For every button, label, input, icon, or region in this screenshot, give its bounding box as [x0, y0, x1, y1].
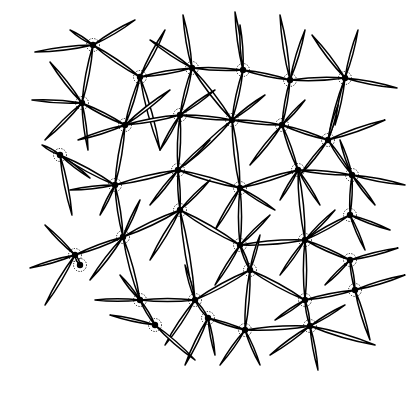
spicule-ray: [35, 45, 93, 52]
spicule-ray: [290, 77, 345, 80]
spicule-network-figure: [0, 0, 418, 393]
node-junction: [152, 322, 158, 328]
spicule-ray: [350, 260, 355, 290]
node-junction: [72, 252, 78, 258]
spicule-ray: [140, 68, 192, 77]
node-junction: [205, 315, 211, 321]
node-junction: [347, 212, 353, 218]
spicule-ray: [250, 270, 305, 300]
spicule-ray: [115, 125, 125, 185]
spicule-ray: [243, 70, 290, 80]
spicule-ray: [328, 120, 385, 140]
spicule-ray: [298, 170, 352, 175]
node-junction: [287, 77, 293, 83]
spicule-ray: [345, 30, 358, 78]
spicule-ray: [32, 100, 82, 104]
spicule-ray: [140, 298, 195, 301]
spicule-layer: [30, 12, 405, 370]
spicule-ray: [183, 15, 192, 68]
spicule-ray: [115, 185, 123, 237]
spicule-ray: [245, 330, 260, 365]
spicule-ray: [325, 260, 350, 285]
spicule-ray: [192, 67, 243, 70]
spicule-ray: [350, 248, 398, 260]
node-junction: [237, 242, 243, 248]
node-junction: [192, 297, 198, 303]
node-junction: [177, 207, 183, 213]
spicule-ray: [310, 305, 345, 326]
node-junction: [79, 100, 85, 106]
node-junction: [295, 167, 301, 173]
spicule-ray: [185, 318, 208, 365]
spicule-ray: [280, 15, 290, 80]
spicule-ray: [50, 62, 82, 103]
spicule-ray: [192, 68, 232, 120]
node-junction: [302, 297, 308, 303]
spicule-ray: [45, 225, 75, 255]
spicule-ray: [290, 30, 305, 80]
spicule-ray: [245, 326, 310, 331]
node-junction: [229, 117, 235, 123]
node-junction: [175, 167, 181, 173]
node-junction: [57, 152, 63, 158]
node-junction: [302, 237, 308, 243]
spicule-ray: [180, 115, 232, 120]
spicule-ray: [312, 35, 345, 78]
node-junction: [352, 287, 358, 293]
node-junction: [120, 234, 126, 240]
spicule-ray: [232, 120, 282, 125]
node-junction: [237, 185, 243, 191]
spicule-ray: [355, 290, 370, 340]
spicule-ray: [250, 125, 282, 165]
spicule-ray: [82, 45, 93, 103]
spicule-ray: [345, 78, 397, 88]
spicule-ray: [305, 290, 355, 300]
spicule-ray: [70, 30, 93, 45]
node-junction: [279, 122, 285, 128]
spicule-ray: [238, 188, 241, 245]
node-junction: [347, 257, 353, 263]
spicule-ray: [245, 270, 250, 330]
node-junction: [240, 67, 246, 73]
node-junction: [90, 42, 96, 48]
spicule-ray: [355, 275, 405, 290]
spicule-ray: [275, 300, 305, 320]
spicule-ray: [305, 240, 350, 260]
node-junction: [112, 182, 118, 188]
spicule-ray: [282, 125, 328, 140]
spicule-ray: [208, 318, 245, 330]
spicule-ray: [215, 188, 240, 230]
spicule-ray: [140, 30, 165, 77]
node-junction: [122, 122, 128, 128]
node-junction: [349, 172, 355, 178]
spicule-ray: [305, 300, 310, 326]
spicule-ray: [93, 20, 135, 45]
spicule-ray: [93, 45, 140, 77]
node-junction: [307, 323, 313, 329]
spicule-ray: [195, 300, 208, 318]
spicule-ray: [282, 125, 298, 170]
spicule-ray: [100, 185, 115, 215]
spicule-network-drawing: [0, 0, 418, 393]
spicule-ray: [177, 115, 180, 170]
node-junction: [247, 267, 253, 273]
spicule-ray: [178, 170, 240, 188]
spicule-ray: [45, 103, 82, 140]
spicule-ray: [178, 140, 210, 170]
node-junction: [342, 75, 348, 81]
node-junction: [242, 327, 248, 333]
spicule-ray: [150, 40, 192, 68]
node-junction: [325, 137, 331, 143]
node-junction: [137, 297, 143, 303]
spicule-ray: [250, 235, 260, 270]
spicule-ray: [82, 103, 125, 125]
node-junction: [189, 65, 195, 71]
spicule-ray: [232, 120, 240, 188]
node-junction: [177, 112, 183, 118]
spicule-ray: [82, 103, 88, 150]
spicule-ray: [180, 210, 240, 245]
node-junction: [137, 74, 143, 80]
spicule-ray: [303, 240, 306, 300]
spicule-ray: [240, 240, 305, 245]
node-junction: [77, 262, 83, 268]
